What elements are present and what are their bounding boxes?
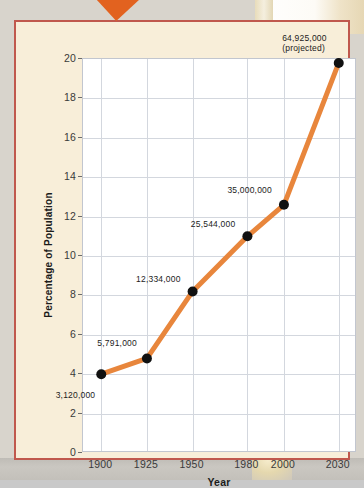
x-tick-label-1950: 1950 (180, 458, 204, 470)
y-tick-label-16: 16 (54, 131, 76, 143)
data-label-line: (projected) (282, 43, 327, 53)
x-tick-label-1925: 1925 (134, 458, 158, 470)
y-tick-mark-0 (78, 452, 82, 453)
y-tick-label-20: 20 (54, 52, 76, 64)
y-axis-tick-labels: 02468101214161820 (52, 58, 76, 452)
data-point-2000[interactable] (279, 200, 289, 210)
y-tick-label-2: 2 (54, 407, 76, 419)
chart-frame: 3,120,0005,791,00012,334,00025,544,00035… (14, 20, 350, 460)
y-tick-label-18: 18 (54, 91, 76, 103)
x-tick-label-2030: 2030 (326, 458, 350, 470)
y-tick-mark-2 (78, 413, 82, 414)
y-tick-mark-18 (78, 97, 82, 98)
y-tick-label-14: 14 (54, 170, 76, 182)
x-axis-title: Year (82, 476, 356, 488)
y-tick-label-0: 0 (54, 446, 76, 458)
data-label-line: 25,544,000 (191, 219, 236, 229)
data-point-2030[interactable] (334, 58, 344, 68)
data-label-2000: 35,000,000 (227, 185, 272, 195)
y-tick-label-10: 10 (54, 249, 76, 261)
y-tick-mark-12 (78, 216, 82, 217)
data-label-line: 5,791,000 (97, 338, 137, 348)
essay-callout-banner: Essay (60, 0, 180, 8)
y-axis-title-wrapper: Percentage of Population (32, 58, 52, 452)
y-tick-mark-14 (78, 176, 82, 177)
data-label-2030: 64,925,000(projected) (282, 33, 327, 54)
x-tick-label-1980: 1980 (234, 458, 258, 470)
data-label-line: 35,000,000 (227, 185, 272, 195)
y-tick-label-12: 12 (54, 210, 76, 222)
line-series (83, 59, 357, 453)
data-point-1980[interactable] (242, 231, 252, 241)
data-point-1925[interactable] (142, 353, 152, 363)
plot-area: 3,120,0005,791,00012,334,00025,544,00035… (82, 58, 356, 452)
y-tick-label-6: 6 (54, 328, 76, 340)
y-tick-mark-8 (78, 294, 82, 295)
data-label-1950: 12,334,000 (136, 274, 181, 284)
x-axis-tick-labels: 190019251950198020002030 (82, 458, 356, 474)
data-label-line: 12,334,000 (136, 274, 181, 284)
x-tick-label-1900: 1900 (88, 458, 112, 470)
y-tick-label-8: 8 (54, 288, 76, 300)
y-tick-mark-16 (78, 137, 82, 138)
y-tick-mark-6 (78, 334, 82, 335)
data-label-1980: 25,544,000 (191, 219, 236, 229)
data-label-1925: 5,791,000 (97, 338, 137, 348)
data-label-line: 64,925,000 (282, 33, 327, 43)
y-tick-mark-20 (78, 58, 82, 59)
y-axis-title: Percentage of Population (43, 192, 54, 317)
x-tick-label-2000: 2000 (271, 458, 295, 470)
y-tick-label-4: 4 (54, 367, 76, 379)
data-point-1950[interactable] (188, 286, 198, 296)
data-point-1900[interactable] (96, 369, 106, 379)
y-tick-mark-10 (78, 255, 82, 256)
y-tick-mark-4 (78, 373, 82, 374)
